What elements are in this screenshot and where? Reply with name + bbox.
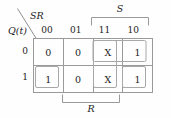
cell-r1-c0: 1: [34, 66, 64, 93]
column-header-3: 10: [119, 26, 147, 35]
bracket-label-r: R: [62, 104, 120, 114]
cell-r1-c1: 0: [63, 66, 93, 93]
table-row: 0 0 X 1: [34, 39, 153, 66]
cell-r0-c3: 1: [123, 39, 153, 66]
cell-r1-c3: 1: [123, 66, 153, 93]
bracket-label-s: S: [91, 4, 149, 14]
cell-r0-c0: 0: [34, 39, 64, 66]
row-header-0: 0: [19, 47, 31, 56]
cell-r0-c1: 0: [63, 39, 93, 66]
column-header-2: 11: [91, 26, 119, 35]
kmap-grid: 0 0 X 1 1 0 X 1: [33, 38, 153, 93]
column-header-0: 00: [33, 26, 61, 35]
row-variable-label: Q(t): [8, 26, 27, 36]
cell-r1-c2: X: [93, 66, 123, 93]
row-header-1: 1: [19, 73, 31, 82]
table-row: 1 0 X 1: [34, 66, 153, 93]
column-variable-label: SR: [30, 11, 44, 21]
column-header-1: 01: [62, 26, 90, 35]
bracket-s-icon: [91, 16, 149, 26]
cell-r0-c2: X: [93, 39, 123, 66]
karnaugh-map: SR Q(t) 00 01 11 10 0 1 0 0 X 1 1 0 X 1 …: [0, 0, 171, 118]
